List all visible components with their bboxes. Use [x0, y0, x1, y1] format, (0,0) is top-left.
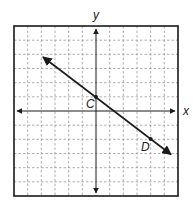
- coordinate-plane: x y C D: [0, 0, 193, 205]
- point-c-label: C: [86, 97, 95, 111]
- point-d-label: D: [141, 140, 150, 154]
- y-axis-label: y: [92, 8, 100, 22]
- x-axis-label: x: [182, 104, 190, 118]
